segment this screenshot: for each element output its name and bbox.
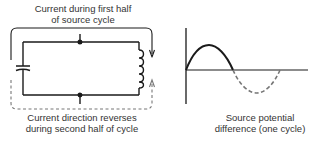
junction-top [78,40,82,44]
graph-caption: Source potential difference (one cycle) [210,112,310,134]
bottom-caption: Current direction reverses during second… [22,112,142,134]
inductor-icon [139,50,144,88]
top-caption-line1: Current during first half [33,3,133,14]
top-caption: Current during first half of source cycl… [33,3,133,25]
junction-bottom [78,93,82,97]
sine-positive-half [186,45,233,70]
top-caption-line2: of source cycle [33,14,133,25]
sine-negative-half [233,70,280,93]
graph [186,28,308,104]
bottom-caption-line2: during second half of cycle [22,123,142,134]
capacitor-icon [16,66,30,71]
circuit [16,34,144,104]
current-arrow-first-half [11,28,155,60]
graph-caption-line1: Source potential [210,112,310,123]
bottom-caption-line1: Current direction reverses [22,112,142,123]
graph-caption-line2: difference (one cycle) [210,123,310,134]
